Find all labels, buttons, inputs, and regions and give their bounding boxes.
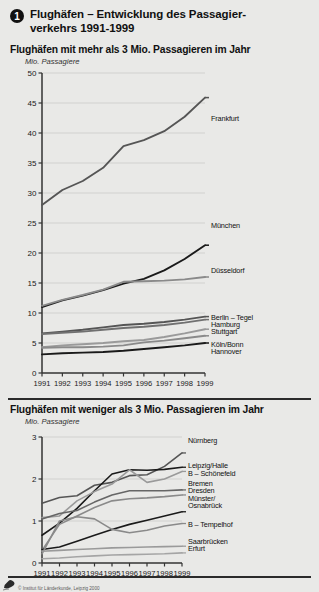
- series-label-bottom-b-tempelhof: B – Tempelhof: [188, 521, 233, 528]
- x-tick-label: 1993: [74, 379, 91, 388]
- ifl-logo-icon: [2, 578, 17, 592]
- y-tick-label: 2: [32, 475, 37, 484]
- y-tick-label: 30: [28, 189, 37, 198]
- page-title-line2: verkehrs 1991-1999: [30, 22, 246, 36]
- y-tick-label: 15: [28, 279, 37, 288]
- series-line-frankfurt: [42, 98, 205, 205]
- series-line-m-nster-osnabr-ck: [42, 512, 182, 550]
- series-label-bottom-erfurt: Erfurt: [188, 545, 205, 552]
- x-tick-label: 1997: [156, 379, 173, 388]
- series-line-b-sch-nefeld: [42, 470, 182, 518]
- y-tick-label: 25: [28, 219, 37, 228]
- y-tick-label: 0: [32, 369, 37, 378]
- series-line-saarbr-cken: [42, 546, 182, 551]
- figure-number-badge: 1: [10, 9, 24, 23]
- series-line-bremen: [42, 490, 182, 519]
- series-line-m-nchen: [42, 245, 205, 307]
- y-tick-label: 10: [28, 309, 37, 318]
- bottom-chart-svg: 0123199119921993199419951996199719981999: [0, 424, 319, 584]
- page-title: Flughäfen – Entwicklung des Passagier- v…: [30, 8, 246, 35]
- y-tick-label: 35: [28, 159, 37, 168]
- series-label-bottom-n-rnberg: Nürnberg: [188, 437, 217, 444]
- series-label-top-d-sseldorf: Düsseldorf: [211, 267, 244, 274]
- page-title-line1: Flughäfen – Entwicklung des Passagier-: [30, 8, 246, 22]
- infographic-page: 1 Flughäfen – Entwicklung des Passagier-…: [0, 0, 319, 592]
- series-line-d-sseldorf: [42, 277, 205, 306]
- y-tick-label: 50: [28, 69, 37, 78]
- page-header: 1 Flughäfen – Entwicklung des Passagier-…: [10, 8, 311, 35]
- divider-rule-1: [8, 398, 311, 400]
- x-tick-label: 1998: [176, 379, 193, 388]
- y-tick-label: 45: [28, 99, 37, 108]
- x-tick-label: 1995: [115, 379, 132, 388]
- top-panel-title: Flughäfen mit mehr als 3 Mio. Passagiere…: [10, 44, 250, 55]
- y-tick-label: 40: [28, 129, 37, 138]
- series-label-bottom-b-sch-nefeld: B – Schönefeld: [188, 470, 235, 477]
- source-credit: © Institut für Länderkunde, Leipzig 2000: [18, 586, 100, 591]
- series-label-top-m-nchen: München: [211, 222, 240, 229]
- series-line-erfurt: [42, 553, 182, 559]
- series-label-bottom-osnabr-ck: Osnabrück: [188, 502, 222, 509]
- y-tick-label: 0: [32, 559, 37, 568]
- y-tick-label: 5: [32, 339, 37, 348]
- bottom-panel-title: Flughäfen mit weniger als 3 Mio. Passagi…: [10, 404, 264, 415]
- top-chart-svg: 0510152025303540455019911992199319941995…: [0, 64, 319, 394]
- x-tick-label: 1992: [54, 379, 71, 388]
- series-line-hamburg: [42, 320, 205, 334]
- top-chart: 0510152025303540455019911992199319941995…: [0, 64, 319, 394]
- x-tick-label: 1994: [95, 379, 112, 388]
- x-tick-label: 1991: [34, 379, 51, 388]
- series-label-top-frankfurt: Frankfurt: [211, 115, 239, 122]
- x-tick-label: 1999: [197, 379, 214, 388]
- bottom-chart: 0123199119921993199419951996199719981999: [0, 424, 319, 584]
- x-tick-label: 1996: [135, 379, 152, 388]
- y-tick-label: 3: [32, 433, 37, 442]
- divider-rule-2: [8, 576, 311, 578]
- series-label-top-stuttgart: Stuttgart: [211, 328, 237, 335]
- y-tick-label: 20: [28, 249, 37, 258]
- series-label-top-hannover: Hannover: [211, 348, 241, 355]
- series-line-berlin-tegel: [42, 317, 205, 334]
- y-tick-label: 1: [32, 517, 37, 526]
- series-line-dresden: [42, 495, 182, 550]
